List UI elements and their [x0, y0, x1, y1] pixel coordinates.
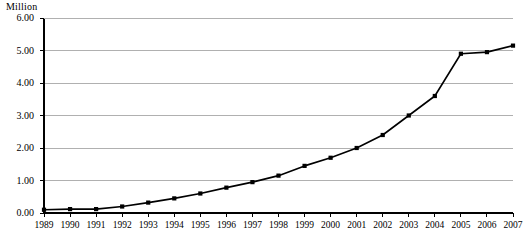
data-point-marker: [42, 208, 46, 212]
data-point-marker: [459, 52, 463, 56]
data-point-marker: [485, 50, 489, 54]
data-point-marker: [302, 164, 306, 168]
data-point-marker: [250, 180, 254, 184]
data-point-marker: [407, 113, 411, 117]
data-point-marker: [355, 146, 359, 150]
data-point-marker: [120, 204, 124, 208]
data-point-marker: [172, 196, 176, 200]
data-line: [44, 46, 513, 210]
data-point-marker: [68, 207, 72, 211]
data-point-marker: [381, 133, 385, 137]
data-point-marker: [433, 94, 437, 98]
data-point-marker: [146, 201, 150, 205]
data-point-marker: [94, 207, 98, 211]
data-point-marker: [224, 186, 228, 190]
data-point-marker: [276, 174, 280, 178]
data-point-marker: [329, 156, 333, 160]
data-point-marker: [198, 191, 202, 195]
data-point-marker: [511, 44, 515, 48]
